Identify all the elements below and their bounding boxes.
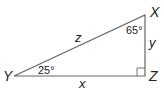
vertex-label-x: X — [149, 4, 160, 20]
side-label-z: z — [74, 30, 82, 45]
vertex-label-z: Z — [148, 68, 158, 84]
vertex-label-y: Y — [3, 68, 14, 84]
right-angle-marker — [137, 68, 145, 76]
side-label-x: x — [78, 76, 86, 91]
side-label-y: y — [148, 35, 157, 50]
triangle-diagram: X Y Z z y x 65° 25° — [0, 0, 164, 91]
angle-label-x: 65° — [126, 24, 143, 36]
angle-label-y: 25° — [38, 64, 55, 76]
